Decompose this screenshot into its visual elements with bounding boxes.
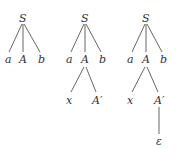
node-a: a — [5, 53, 12, 66]
edge-A-Aprime — [86, 67, 96, 92]
tree-3: S a A b x A′ ε — [127, 12, 167, 148]
node-b: b — [38, 53, 45, 66]
node-Aprime: A′ — [153, 94, 165, 107]
node-b: b — [99, 53, 106, 66]
node-S: S — [19, 12, 27, 25]
tree-1: S a A b — [5, 12, 45, 66]
edge-A-x — [132, 67, 145, 92]
edge-A-Aprime — [147, 67, 158, 92]
node-x: x — [66, 94, 73, 107]
edge-S-b — [24, 24, 40, 52]
parse-tree-figure: S a A b S a A b x A′ S a A b x A′ ε — [0, 0, 176, 149]
node-S: S — [142, 12, 150, 25]
node-x: x — [127, 94, 134, 107]
node-a: a — [66, 53, 73, 66]
node-b: b — [160, 53, 167, 66]
edge-S-a — [71, 24, 84, 52]
tree-2: S a A b x A′ — [66, 12, 106, 107]
node-A: A — [141, 53, 150, 66]
node-S: S — [81, 12, 89, 25]
node-A: A — [80, 53, 89, 66]
node-A: A — [18, 53, 27, 66]
node-a: a — [127, 53, 134, 66]
edge-A-x — [71, 67, 84, 92]
node-Aprime: A′ — [91, 94, 103, 107]
edge-S-a — [9, 24, 22, 52]
edge-S-b — [147, 24, 162, 52]
edge-S-b — [86, 24, 101, 52]
node-epsilon: ε — [156, 135, 162, 148]
edge-S-a — [132, 24, 145, 52]
